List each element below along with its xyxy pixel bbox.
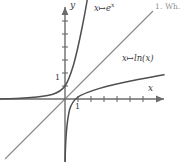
x-axis-label: x bbox=[148, 84, 153, 93]
corner-note-label: 1. Wh. bbox=[155, 3, 180, 11]
y-axis-group bbox=[62, 7, 69, 162]
exp-function-label: x↦ex bbox=[94, 2, 114, 12]
curve-exp-x bbox=[0, 0, 87, 99]
exp-label-exponent: x bbox=[111, 1, 114, 8]
ln-label-mapsto: ↦ bbox=[127, 53, 134, 63]
math-figure: y x 1 1 x↦ex x↦ln(x) 1. Wh. bbox=[0, 0, 180, 162]
y-axis-unit-label: 1 bbox=[55, 74, 60, 82]
identity-line-y-equals-x bbox=[5, 11, 153, 159]
x-axis-unit-label: 1 bbox=[75, 103, 80, 111]
y-axis-label: y bbox=[70, 1, 75, 10]
y-axis-arrowhead bbox=[62, 7, 69, 15]
exp-label-mapsto: ↦ bbox=[99, 3, 106, 13]
ln-function-label: x↦ln(x) bbox=[122, 54, 154, 63]
ln-label-body: ln(x) bbox=[134, 53, 154, 63]
x-axis-arrowhead bbox=[156, 96, 164, 103]
identity-line-group bbox=[5, 11, 153, 159]
x-axis-group bbox=[0, 96, 164, 103]
exponential-curve-group bbox=[0, 0, 87, 99]
graph-canvas bbox=[0, 0, 180, 162]
